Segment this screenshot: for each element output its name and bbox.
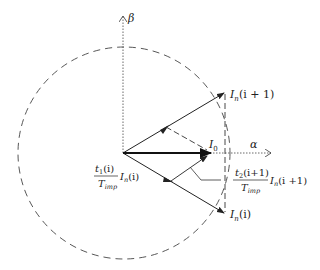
component-solid <box>171 156 207 181</box>
svg-text:Timp: Timp <box>98 178 118 191</box>
svg-text:In(i + 1): In(i + 1) <box>229 88 274 103</box>
beta-label: β <box>127 12 134 25</box>
label-in-next: In(i + 1) <box>229 88 274 103</box>
svg-text:t2(i+1): t2(i+1) <box>235 167 269 180</box>
space-vector-diagram: β α In(i + 1) In(i) I0 t1(i) Timp In(i) <box>0 0 320 270</box>
svg-text:I0: I0 <box>208 138 218 153</box>
svg-text:t1(i): t1(i) <box>95 163 114 176</box>
label-in-current: In(i) <box>229 208 251 223</box>
left-fraction-label: t1(i) Timp In(i) <box>94 163 139 191</box>
svg-text:In(i +1): In(i +1) <box>269 175 307 188</box>
mid-arrowhead-lower <box>163 177 173 182</box>
vector-in-current <box>123 153 224 213</box>
right-fraction-label: t2(i+1) Timp In(i +1) <box>233 167 307 195</box>
svg-text:In(i): In(i) <box>229 208 251 223</box>
component-dashed <box>166 127 207 150</box>
alpha-label: α <box>250 138 258 151</box>
svg-text:In(i): In(i) <box>119 171 139 184</box>
annotation-leader <box>190 167 221 180</box>
svg-text:Timp: Timp <box>241 182 261 195</box>
mid-arrowhead-upper <box>160 125 169 134</box>
label-i0: I0 <box>208 138 218 153</box>
